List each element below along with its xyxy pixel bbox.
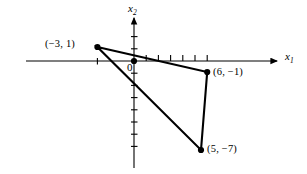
plot-canvas	[0, 0, 307, 174]
y-axis	[131, 18, 138, 168]
origin-label: 0	[127, 62, 133, 73]
point-label-5-neg7: (5, −7)	[207, 144, 237, 155]
figure-container: x2 x1 0 (−3, 1) (6, −1) (5, −7)	[0, 0, 307, 174]
point-marker-5-neg7	[198, 147, 204, 153]
point-label-neg3-1: (−3, 1)	[45, 39, 75, 50]
x-axis-label: x1	[285, 51, 294, 65]
y-axis-label: x2	[128, 3, 137, 17]
point-marker-6-neg1	[204, 69, 210, 75]
point-label-6-neg1: (6, −1)	[213, 67, 243, 78]
point-marker-neg3-1	[94, 44, 100, 50]
triangle-polygon	[97, 47, 207, 150]
